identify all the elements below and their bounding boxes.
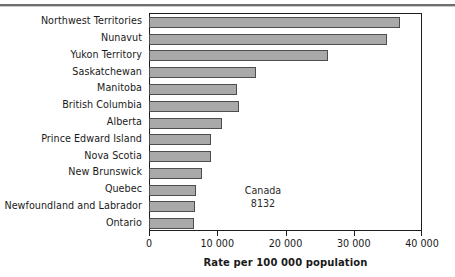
bar [149, 218, 194, 229]
category-axis-labels: Northwest TerritoriesNunavutYukon Territ… [0, 13, 145, 231]
category-label: Yukon Territory [70, 47, 142, 63]
category-label: Nunavut [101, 30, 142, 46]
canada-annotation-value: 8132 [228, 197, 298, 210]
category-label: British Columbia [62, 97, 142, 113]
canada-annotation: Canada 8132 [228, 184, 298, 210]
bar [149, 118, 222, 129]
category-label: Quebec [105, 181, 142, 197]
x-axis-tick [217, 231, 218, 236]
category-label: Manitoba [97, 80, 142, 96]
x-axis-tick-label: 40 000 [405, 238, 439, 249]
canada-annotation-label: Canada [228, 184, 298, 197]
x-axis-tick [286, 231, 287, 236]
x-axis-title: Rate per 100 000 population [149, 257, 422, 268]
bar [149, 84, 237, 95]
bar [149, 168, 202, 179]
bar [149, 17, 400, 28]
bar [149, 201, 195, 212]
x-axis-tick-label: 20 000 [269, 238, 303, 249]
category-label: Newfoundland and Labrador [4, 198, 142, 214]
category-label: Ontario [106, 215, 142, 231]
category-label: Northwest Territories [41, 13, 142, 29]
x-axis-tick-label: 10 000 [200, 238, 234, 249]
x-axis-tick-label: 0 [146, 238, 152, 249]
bar [149, 101, 239, 112]
chart-figure: Northwest TerritoriesNunavutYukon Territ… [0, 0, 455, 277]
bar [149, 151, 211, 162]
category-label: Alberta [107, 114, 142, 130]
bar [149, 50, 328, 61]
x-axis-tick [149, 231, 150, 236]
category-label: Nova Scotia [84, 148, 142, 164]
header-divider [0, 4, 455, 6]
x-axis-tick [354, 231, 355, 236]
x-axis-tick-label: 30 000 [337, 238, 371, 249]
x-axis-tick [421, 231, 422, 236]
category-label: Saskatchewan [72, 64, 142, 80]
category-label: New Brunswick [68, 164, 142, 180]
bar [149, 134, 211, 145]
category-label: Prince Edward Island [41, 131, 142, 147]
x-axis: Rate per 100 000 population 010 00020 00… [149, 231, 422, 277]
bar [149, 67, 256, 78]
bar [149, 34, 387, 45]
bar [149, 185, 196, 196]
